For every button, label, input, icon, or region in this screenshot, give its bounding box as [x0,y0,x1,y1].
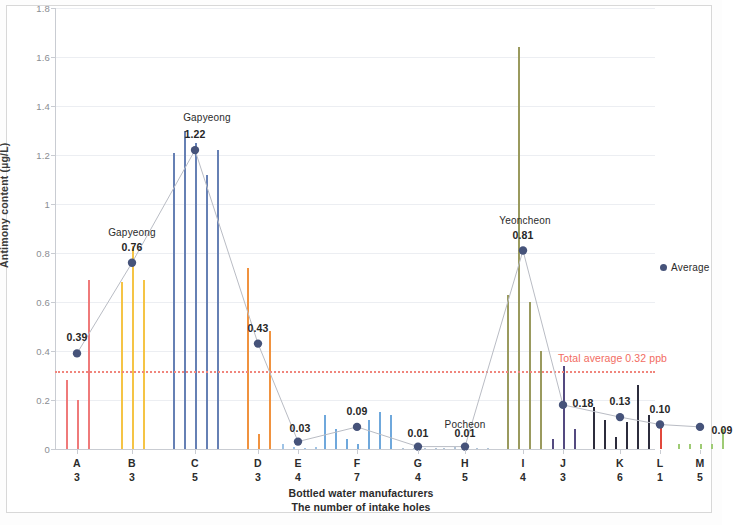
x-category-letter: C [191,456,199,470]
x-category-holes: 4 [294,470,301,484]
average-marker [519,246,527,254]
x-category-c: C5 [191,456,199,484]
x-axis-title-line1: Bottled water manufacturers [0,486,722,500]
x-category-letter: E [294,456,301,470]
x-tick-mark [563,450,564,454]
average-marker [294,437,302,445]
x-tick-mark [77,450,78,454]
x-category-holes: 7 [354,470,361,484]
x-category-k: K6 [616,456,624,484]
data-label: 0.09 [346,405,367,417]
x-tick-mark [258,450,259,454]
x-tick-mark [700,450,701,454]
average-marker [656,420,664,428]
y-tick-label: 1.8 [36,3,50,14]
x-category-holes: 3 [254,470,262,484]
x-axis-line [55,449,655,450]
average-marker [353,423,361,431]
x-tick-mark [132,450,133,454]
x-tick-mark [195,450,196,454]
x-tick-mark [298,450,299,454]
x-category-holes: 1 [657,470,664,484]
data-label: 0.76 [121,241,142,253]
x-category-holes: 3 [560,470,566,484]
x-category-holes: 4 [520,470,526,484]
x-category-h: H5 [461,456,469,484]
legend: Average [660,262,709,273]
x-category-e: E4 [294,456,301,484]
x-category-letter: F [354,456,361,470]
x-tick-mark [418,450,419,454]
y-tick-label: 0 [45,444,50,455]
site-annotation: Gapyeong [183,112,231,123]
average-marker [191,146,199,154]
y-tick-mark [51,449,55,450]
x-category-b: B3 [128,456,136,484]
x-category-letter: K [616,456,624,470]
x-category-holes: 4 [414,470,422,484]
x-category-holes: 6 [616,470,624,484]
x-category-d: D3 [254,456,262,484]
y-axis-title: Antimony content (µg/L) [0,142,10,268]
x-category-letter: J [560,456,566,470]
average-legend-dot [660,264,667,271]
average-marker [128,259,136,267]
data-label: 1.22 [184,128,205,140]
bar [689,444,691,449]
y-tick-label: 0.2 [36,395,50,406]
bar [678,444,680,449]
x-category-l: L1 [657,456,664,484]
y-tick-label: 1.4 [36,101,50,112]
site-annotation: Pocheon [445,419,486,430]
x-category-holes: 5 [696,470,705,484]
data-label: 0.39 [66,331,87,343]
y-tick-label: 1.2 [36,150,50,161]
x-category-letter: L [657,456,664,470]
x-category-letter: G [414,456,422,470]
y-tick-label: 1 [45,199,50,210]
x-category-letter: H [461,456,469,470]
x-category-a: A3 [73,456,81,484]
data-label: 0.01 [407,427,428,439]
x-tick-mark [620,450,621,454]
legend-label-average: Average [671,262,709,273]
x-tick-mark [465,450,466,454]
data-label: 0.43 [247,322,268,334]
x-category-holes: 5 [191,470,199,484]
x-category-m: M5 [696,456,705,484]
average-marker [254,339,262,347]
average-marker [559,401,567,409]
y-tick-label: 0.4 [36,346,50,357]
x-tick-mark [523,450,524,454]
average-marker [696,423,704,431]
x-category-letter: I [520,456,526,470]
average-marker [616,413,624,421]
x-category-j: J3 [560,456,566,484]
average-marker [73,349,81,357]
x-category-letter: D [254,456,262,470]
x-category-letter: B [128,456,136,470]
data-label: 0.81 [512,229,533,241]
site-annotation: Gapyeong [108,227,156,238]
data-label: 0.10 [649,403,670,415]
data-label: 0.09 [711,424,732,436]
data-label: 0.18 [572,397,593,409]
data-label: 0.03 [289,422,310,434]
x-category-i: I4 [520,456,526,484]
site-annotation: Yeoncheon [499,215,550,226]
x-category-f: F7 [354,456,361,484]
x-axis-title-line2: The number of intake holes [0,500,722,514]
bar [711,444,713,449]
x-category-holes: 5 [461,470,469,484]
y-tick-label: 0.8 [36,248,50,259]
x-tick-mark [660,450,661,454]
x-category-g: G4 [414,456,422,484]
average-line [77,150,700,447]
x-tick-mark [357,450,358,454]
y-tick-label: 1.6 [36,52,50,63]
x-category-letter: M [696,456,705,470]
data-label: 0.13 [609,395,630,407]
bar [700,444,702,449]
x-category-letter: A [73,456,81,470]
